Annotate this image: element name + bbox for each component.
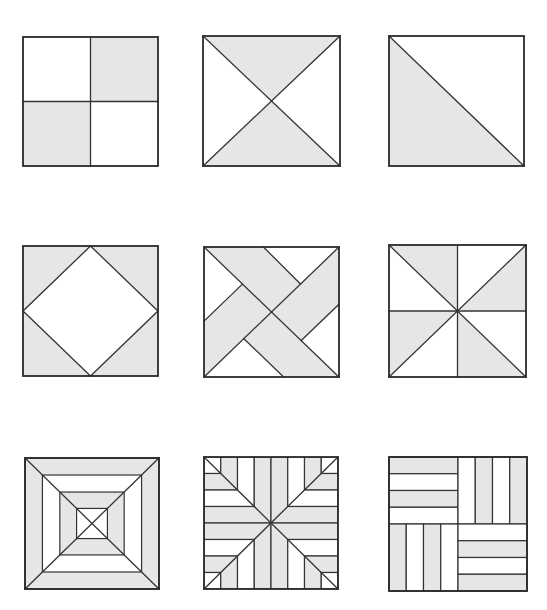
rail-strip: [458, 574, 527, 591]
pinwheel-svg: [389, 245, 526, 377]
shaded-patch: [23, 102, 91, 167]
rail-strip: [389, 457, 458, 474]
rail-strip: [510, 457, 527, 524]
square-in-square-svg: [23, 246, 158, 376]
hourglass-svg: [203, 36, 340, 166]
four-patch-block: [23, 37, 158, 166]
rail-strip: [389, 491, 458, 508]
rail-strip: [458, 457, 475, 524]
hourglass-block: [203, 36, 340, 166]
strip-star-svg: [204, 457, 338, 589]
rail-strip: [389, 474, 458, 491]
pinwheel-block: [389, 245, 526, 377]
four-patch-svg: [23, 37, 158, 166]
rail-strip: [389, 507, 458, 524]
shaded-patch: [91, 37, 159, 102]
rail-fence-svg: [389, 457, 527, 591]
half-square-triangle-svg: [389, 36, 524, 166]
rail-strip: [475, 457, 492, 524]
interwoven-bands-svg: [204, 247, 339, 377]
rail-strip: [458, 541, 527, 558]
interwoven-bands-block: [204, 247, 339, 377]
half-square-triangle-block: [389, 36, 524, 166]
rail-strip: [389, 524, 406, 591]
rail-fence-block: [389, 457, 527, 591]
rail-strip: [424, 524, 441, 591]
rail-strip: [493, 457, 510, 524]
strip-star-block: [204, 457, 338, 589]
square-in-square-block: [23, 246, 158, 376]
concentric-squares-svg: [25, 458, 159, 589]
concentric-squares-block: [25, 458, 159, 589]
rail-strip: [458, 558, 527, 575]
rail-strip: [406, 524, 423, 591]
rail-strip: [458, 524, 527, 541]
rail-strip: [441, 524, 458, 591]
